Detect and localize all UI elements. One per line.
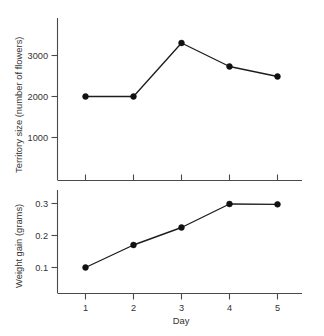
top-data-point-day-5 <box>275 74 281 80</box>
top-ytick-label-3000: 3000 <box>28 51 48 61</box>
bottom-xtick-label-1: 1 <box>83 303 88 313</box>
bottom-x-axis-title: Day <box>173 315 190 326</box>
top-panel: 3000 2000 1000 Territory size (number of… <box>13 18 302 181</box>
bottom-xtick-label-3: 3 <box>179 303 184 313</box>
bottom-xtick-label-4: 4 <box>227 303 232 313</box>
top-ytick-label-2000: 2000 <box>28 92 48 102</box>
bottom-xtick-label-2: 2 <box>131 303 136 313</box>
top-ytick-label-1000: 1000 <box>28 133 48 143</box>
bottom-xtick-label-5: 5 <box>275 303 280 313</box>
bottom-data-point-day-1 <box>83 265 89 271</box>
top-data-point-day-1 <box>83 94 89 100</box>
top-data-point-day-3 <box>179 40 185 46</box>
bottom-panel: 0.3 0.2 0.1 1 2 3 4 5 Weight gain (grams… <box>13 190 302 326</box>
bottom-y-axis-title: Weight gain (grams) <box>13 204 24 288</box>
figure-container: 3000 2000 1000 Territory size (number of… <box>0 0 324 336</box>
two-panel-line-chart: 3000 2000 1000 Territory size (number of… <box>0 0 324 336</box>
top-data-point-day-4 <box>227 64 233 70</box>
bottom-data-point-day-5 <box>275 201 281 207</box>
bottom-data-point-day-3 <box>179 225 185 231</box>
top-series-line <box>86 43 278 97</box>
top-data-point-day-2 <box>131 94 137 100</box>
bottom-ytick-label-0.2: 0.2 <box>35 231 48 241</box>
bottom-data-point-day-2 <box>131 242 137 248</box>
bottom-ytick-label-0.1: 0.1 <box>35 263 48 273</box>
bottom-ytick-label-0.3: 0.3 <box>35 199 48 209</box>
bottom-series-line <box>86 204 278 268</box>
bottom-data-point-day-4 <box>227 201 233 207</box>
top-y-axis-title: Territory size (number of flowers) <box>13 37 24 174</box>
